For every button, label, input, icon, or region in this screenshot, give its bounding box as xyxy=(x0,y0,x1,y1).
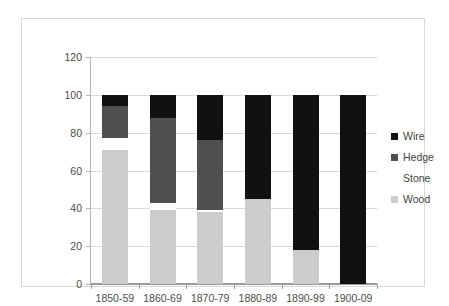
bar-segment-1850-59-hedge[interactable] xyxy=(102,106,128,138)
legend-label-wire: Wire xyxy=(403,131,425,142)
bar-segment-1900-09-wire[interactable] xyxy=(340,95,366,284)
bar-segment-1860-69-wood[interactable] xyxy=(150,210,176,284)
plot-area: 020406080100120 1850-591860-691870-79188… xyxy=(91,57,377,284)
x-tick-mark-3 xyxy=(234,284,235,289)
y-tick-mark-20 xyxy=(86,246,91,247)
y-tick-mark-60 xyxy=(86,171,91,172)
legend-item-wood[interactable]: Wood xyxy=(391,189,449,210)
y-tick-label-20: 20 xyxy=(70,240,82,252)
bar-1900-09[interactable] xyxy=(340,57,366,284)
bar-segment-1860-69-hedge[interactable] xyxy=(150,118,176,203)
bar-segment-1860-69-wire[interactable] xyxy=(150,95,176,118)
x-tick-mark-1 xyxy=(139,284,140,289)
y-tick-label-100: 100 xyxy=(64,89,82,101)
x-tick-label-1890-99: 1890-99 xyxy=(286,292,325,304)
bar-segment-1870-79-wire[interactable] xyxy=(197,95,223,140)
bar-1860-69[interactable] xyxy=(150,57,176,284)
bar-segment-1880-89-wire[interactable] xyxy=(245,95,271,199)
y-tick-mark-120 xyxy=(86,57,91,58)
legend-item-hedge[interactable]: Hedge xyxy=(391,147,449,168)
x-tick-label-1860-69: 1860-69 xyxy=(143,292,182,304)
x-tick-mark-2 xyxy=(186,284,187,289)
gridline-20 xyxy=(91,246,377,247)
y-tick-mark-40 xyxy=(86,208,91,209)
bar-segment-1850-59-wood[interactable] xyxy=(102,150,128,284)
y-tick-label-120: 120 xyxy=(64,51,82,63)
bar-segment-1850-59-stone[interactable] xyxy=(102,138,128,149)
legend-label-stone: Stone xyxy=(403,173,430,184)
bar-segment-1890-99-wood[interactable] xyxy=(293,250,319,284)
legend-label-hedge: Hedge xyxy=(403,152,434,163)
bar-segment-1860-69-stone[interactable] xyxy=(150,203,176,211)
y-tick-label-80: 80 xyxy=(70,127,82,139)
legend-swatch-wire-icon xyxy=(391,133,398,140)
legend-swatch-wood-icon xyxy=(391,196,398,203)
legend-item-stone[interactable]: Stone xyxy=(391,168,449,189)
y-tick-label-60: 60 xyxy=(70,165,82,177)
bar-segment-1870-79-wood[interactable] xyxy=(197,212,223,284)
bar-segment-1890-99-wire[interactable] xyxy=(293,95,319,250)
gridline-60 xyxy=(91,171,377,172)
y-tick-mark-100 xyxy=(86,95,91,96)
gridline-40 xyxy=(91,208,377,209)
x-tick-label-1880-89: 1880-89 xyxy=(239,292,278,304)
bar-segment-1870-79-hedge[interactable] xyxy=(197,140,223,210)
x-tick-label-1900-09: 1900-09 xyxy=(334,292,373,304)
x-tick-mark-5 xyxy=(329,284,330,289)
legend-label-wood: Wood xyxy=(403,194,430,205)
bar-segment-1850-59-wire[interactable] xyxy=(102,95,128,106)
bar-1850-59[interactable] xyxy=(102,57,128,284)
x-tick-mark-4 xyxy=(282,284,283,289)
x-tick-mark-end xyxy=(377,284,378,289)
gridline-100 xyxy=(91,95,377,96)
legend-swatch-hedge-icon xyxy=(391,154,398,161)
bar-1880-89[interactable] xyxy=(245,57,271,284)
bar-segment-1880-89-wood[interactable] xyxy=(245,199,271,284)
gridline-80 xyxy=(91,133,377,134)
y-tick-mark-80 xyxy=(86,133,91,134)
y-tick-label-40: 40 xyxy=(70,202,82,214)
chart-legend: WireHedgeStoneWood xyxy=(391,126,449,210)
x-tick-mark-0 xyxy=(91,284,92,289)
legend-item-wire[interactable]: Wire xyxy=(391,126,449,147)
x-tick-label-1850-59: 1850-59 xyxy=(96,292,135,304)
gridline-120 xyxy=(91,57,377,58)
y-tick-label-0: 0 xyxy=(76,278,82,290)
bar-segment-1870-79-stone[interactable] xyxy=(197,210,223,212)
chart-frame: 020406080100120 1850-591860-691870-79188… xyxy=(21,18,425,287)
legend-swatch-stone-icon xyxy=(391,175,398,182)
x-tick-label-1870-79: 1870-79 xyxy=(191,292,230,304)
bar-1870-79[interactable] xyxy=(197,57,223,284)
bar-1890-99[interactable] xyxy=(293,57,319,284)
